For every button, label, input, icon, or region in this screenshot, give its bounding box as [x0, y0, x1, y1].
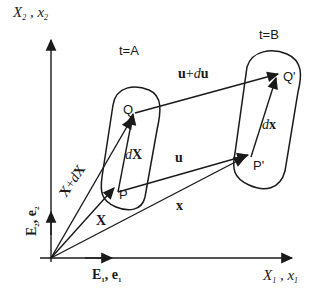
- vector-dx-label: dx: [262, 117, 276, 132]
- point-Q-prime-label: Q': [283, 69, 296, 84]
- horizontal-axis-label: X1 , x1: [262, 267, 298, 285]
- reference-time-label: t=A: [119, 43, 139, 58]
- vector-u-label: u: [175, 150, 183, 165]
- deformation-diagram: X2 , x2 X1 , x1 E1, e1 E2, e2 t=A t=B Q …: [0, 0, 323, 303]
- basis-e2-label: E2, e2: [24, 206, 41, 236]
- vector-dX-label: dX: [125, 147, 142, 162]
- vertical-axis-label: X2 , x2: [12, 4, 48, 22]
- current-time-label: t=B: [259, 27, 279, 42]
- vector-u-plus-du-label: u+du: [178, 66, 209, 81]
- point-Q-label: Q: [123, 102, 133, 117]
- point-P-label: P: [119, 187, 128, 202]
- vector-x-label: x: [176, 198, 183, 213]
- vector-X-label: X: [96, 213, 106, 228]
- point-P-prime-label: P': [253, 158, 264, 173]
- basis-e1-label: E1, e1: [92, 267, 122, 284]
- vector-X-plus-dX-label: X+dX: [56, 162, 88, 200]
